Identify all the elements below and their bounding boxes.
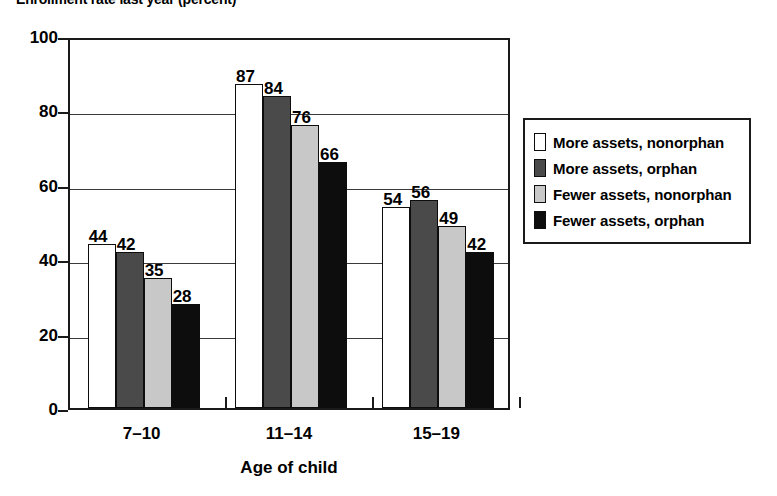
bar-value-label: 44 xyxy=(89,228,108,245)
legend-swatch-icon xyxy=(534,159,546,177)
y-axis-tick-mark xyxy=(58,336,68,338)
y-axis-tick-mark xyxy=(58,112,68,114)
legend-item: More assets, orphan xyxy=(534,155,741,181)
bar-group: 87847666 xyxy=(235,40,347,408)
x-axis-category-label: 7–10 xyxy=(123,424,161,444)
bar xyxy=(319,162,347,408)
bar-value-label: 56 xyxy=(411,184,430,201)
y-axis-tick-mark xyxy=(58,261,68,263)
legend-label: More assets, nonorphan xyxy=(553,134,724,151)
bar xyxy=(410,200,438,408)
bar-value-label: 35 xyxy=(145,262,164,279)
bar xyxy=(382,207,410,408)
legend-label: Fewer assets, nonorphan xyxy=(553,186,732,203)
x-axis-category-label: 15–19 xyxy=(413,424,460,444)
legend-label: Fewer assets, orphan xyxy=(553,212,704,229)
plot-area: 444235288784766654564942 xyxy=(68,38,510,410)
bar-value-label: 42 xyxy=(117,236,136,253)
bar-group: 44423528 xyxy=(88,40,200,408)
legend-item: Fewer assets, orphan xyxy=(534,207,741,233)
x-axis-title: Age of child xyxy=(240,458,337,478)
bar-value-label: 87 xyxy=(236,68,255,85)
bar xyxy=(172,304,200,408)
legend-item: Fewer assets, nonorphan xyxy=(534,181,741,207)
bar xyxy=(144,278,172,408)
bar xyxy=(438,226,466,408)
bar xyxy=(291,125,319,408)
bar-value-label: 66 xyxy=(320,146,339,163)
bar-value-label: 49 xyxy=(439,210,458,227)
x-axis-category-label: 11–14 xyxy=(266,424,312,444)
bar xyxy=(466,252,494,408)
legend-label: More assets, orphan xyxy=(553,160,697,177)
bar-chart: Enrollment rate last year (percent) 0204… xyxy=(0,0,777,496)
bar xyxy=(235,84,263,408)
x-axis-minor-tick xyxy=(519,397,521,408)
y-axis-tick-mark xyxy=(58,38,68,40)
bar-value-label: 28 xyxy=(173,288,192,305)
y-axis-tick-mark xyxy=(58,187,68,189)
legend: More assets, nonorphanMore assets, orpha… xyxy=(523,118,751,244)
legend-swatch-icon xyxy=(534,211,546,229)
bar xyxy=(116,252,144,408)
bar xyxy=(88,244,116,408)
bar xyxy=(263,96,291,408)
legend-swatch-icon xyxy=(534,133,546,151)
legend-swatch-icon xyxy=(534,185,546,203)
legend-item: More assets, nonorphan xyxy=(534,129,741,155)
bar-value-label: 84 xyxy=(264,80,283,97)
bar-value-label: 54 xyxy=(383,191,402,208)
x-axis-minor-tick xyxy=(225,397,227,408)
y-axis-tick-mark xyxy=(58,410,68,412)
bar-group: 54564942 xyxy=(382,40,494,408)
x-axis-minor-tick xyxy=(372,397,374,408)
bar-value-label: 42 xyxy=(467,236,486,253)
bar-value-label: 76 xyxy=(292,109,311,126)
